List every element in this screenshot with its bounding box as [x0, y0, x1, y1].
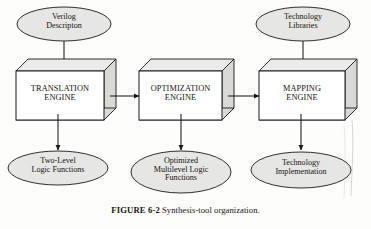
ellipse-shape: [251, 152, 351, 188]
ellipse-shape: [131, 151, 231, 193]
figure-number: FIGURE 6-2: [111, 205, 160, 215]
cube-top-face: [139, 59, 234, 71]
synthesis-tool-diagram: [0, 0, 371, 229]
ellipse-shape: [17, 7, 111, 41]
cube-front-face: [139, 71, 222, 120]
input-node-technology-libraries[interactable]: [256, 7, 350, 41]
output-node-technology-implementation[interactable]: [251, 152, 351, 188]
cube-front-face: [16, 71, 104, 120]
cube-top-face: [259, 59, 357, 71]
scan-artifact-line: [351, 120, 353, 196]
figure-caption: FIGURE 6-2 Synthesis-tool organization.: [0, 205, 371, 215]
cube-front-face: [259, 71, 345, 120]
output-node-two-level-logic-functions[interactable]: [8, 151, 108, 185]
stage-node-optimization-engine[interactable]: [139, 59, 234, 120]
ellipse-shape: [256, 7, 350, 41]
ellipse-shape: [8, 151, 108, 185]
stage-node-mapping-engine[interactable]: [259, 59, 357, 120]
figure-caption-text: Synthesis-tool organization.: [162, 205, 260, 215]
output-node-optimized-multilevel-logic-functions[interactable]: [131, 151, 231, 193]
cube-top-face: [16, 59, 116, 71]
input-node-verilog-description[interactable]: [17, 7, 111, 41]
stage-node-translation-engine[interactable]: [16, 59, 116, 120]
